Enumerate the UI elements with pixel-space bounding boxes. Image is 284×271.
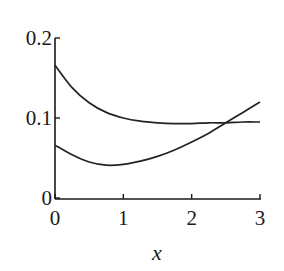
axes [55,38,261,199]
y-tick-label: 0.1 [26,106,52,130]
line-chart: 00.10.2 0123 x [0,0,284,271]
x-axis-label: x [151,240,162,265]
lower-curve [55,102,260,165]
upper-curve [55,65,260,124]
x-tick-label: 3 [255,206,266,230]
x-tick-label: 2 [186,206,197,230]
x-tick-label: 0 [50,206,61,230]
x-tick-label: 1 [118,206,129,230]
series-lines [55,65,260,165]
y-tick-label: 0.2 [26,26,52,50]
